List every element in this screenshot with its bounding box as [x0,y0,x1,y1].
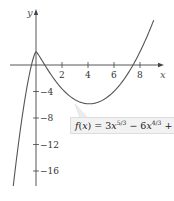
x-tick-label: 4 [85,70,91,80]
y-axis-label: y [26,7,33,18]
y-axis-arrow-icon [34,9,38,15]
callout-pointer [75,104,88,118]
y-tick-label: −8 [40,113,54,123]
x-tick-label: 6 [111,70,117,80]
x-axis-arrow-icon [158,63,164,67]
x-axis-label: x [160,69,166,80]
exponent-1: 5/3 [117,119,127,126]
exponent-2: 4/3 [152,119,162,126]
function-curve [13,20,153,186]
y-tick-label: −4 [40,87,54,97]
function-graph: x y 2 4 6 8 −4 −8 −12 −16 [0,0,174,201]
x-tick-label: 8 [137,70,143,80]
y-tick-label: −12 [40,140,59,150]
x-tick-label: 2 [59,70,65,80]
function-label: f(x) = 3x5/3 − 6x4/3 + 2 [70,117,174,134]
y-tick-label: −16 [40,166,59,176]
